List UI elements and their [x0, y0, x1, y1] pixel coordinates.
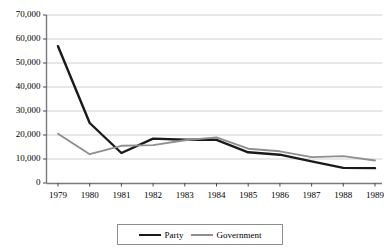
line-swatch-dark-icon	[139, 234, 161, 236]
chart-legend: Party Government	[117, 224, 283, 245]
line-swatch-gray-icon	[191, 234, 213, 236]
y-axis-tick-label: 70,000	[16, 9, 41, 19]
y-axis-tick-label: 20,000	[16, 129, 41, 139]
y-axis-tick-label: 50,000	[16, 57, 41, 67]
x-axis-tick-label: 1989	[355, 190, 392, 200]
legend-label-government: Government	[217, 230, 262, 240]
y-axis-tick-label: 40,000	[16, 81, 41, 91]
plot-area	[0, 0, 392, 251]
legend-item-government: Government	[191, 230, 262, 240]
legend-label-party: Party	[165, 230, 184, 240]
y-axis-tick-label: 0	[36, 177, 41, 187]
y-axis-tick-label: 30,000	[16, 105, 41, 115]
y-axis-tick-label: 10,000	[16, 153, 41, 163]
line-chart: 010,00020,00030,00040,00050,00060,00070,…	[0, 0, 392, 251]
y-axis-tick-label: 60,000	[16, 33, 41, 43]
data-series-layer	[58, 46, 375, 168]
legend-item-party: Party	[139, 230, 184, 240]
